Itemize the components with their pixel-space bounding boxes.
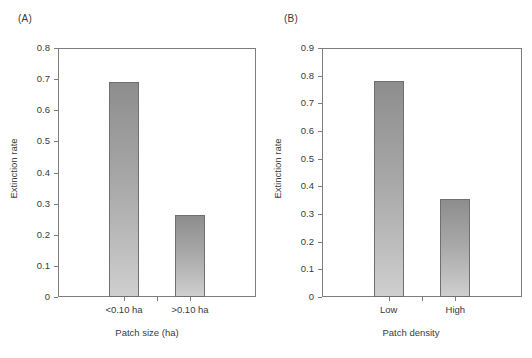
y-tick-label: 0.3 (301, 207, 314, 220)
y-tick-mark (54, 297, 58, 298)
x-tick-mark (455, 297, 456, 301)
y-tick-label: 0.1 (37, 259, 50, 272)
figure-root: (A) 00.10.20.30.40.50.60.70.8 Extinction… (0, 0, 532, 358)
clipped-caption-fragment (518, 10, 532, 56)
y-tick-label: 0.6 (301, 124, 314, 137)
panel-b-letter: (B) (284, 13, 298, 24)
panel-a-y-axis-title: Extinction rate (8, 119, 19, 219)
x-tick-label: >0.10 ha (171, 304, 208, 315)
panel-b-bars (322, 48, 522, 297)
y-tick-label: 0.4 (301, 179, 314, 192)
bar (109, 82, 139, 297)
panel-a: (A) 00.10.20.30.40.50.60.70.8 Extinction… (0, 0, 266, 358)
y-tick-label: 0.8 (37, 41, 50, 54)
bar (440, 199, 470, 297)
y-tick-mark (318, 297, 322, 298)
x-tick-label: Low (380, 304, 397, 315)
panel-a-bars (58, 48, 256, 297)
x-tick-label: <0.10 ha (105, 304, 142, 315)
x-tick-mark (124, 297, 125, 301)
x-tick-mark (389, 297, 390, 301)
panel-b-x-axis-title: Patch density (278, 327, 532, 338)
y-tick-label: 0.2 (37, 228, 50, 241)
y-tick-label: 0.5 (301, 152, 314, 165)
y-tick-label: 0.1 (301, 262, 314, 275)
panel-b: (B) 00.10.20.30.40.50.60.70.80.9 Extinct… (266, 0, 532, 358)
y-tick-label: 0.6 (37, 103, 50, 116)
x-tick-label: High (446, 304, 466, 315)
y-tick-label: 0 (45, 290, 50, 303)
y-tick-label: 0 (309, 290, 314, 303)
x-tick-mark (190, 297, 191, 301)
y-tick-label: 0.8 (301, 69, 314, 82)
panel-b-y-axis-title: Extinction rate (272, 119, 283, 219)
panel-a-letter: (A) (18, 13, 32, 24)
bar (374, 81, 404, 297)
y-tick-label: 0.3 (37, 197, 50, 210)
panel-a-x-axis-title: Patch size (ha) (14, 327, 280, 338)
x-tick-mark-mid (422, 297, 423, 301)
y-tick-label: 0.5 (37, 134, 50, 147)
y-tick-label: 0.9 (301, 41, 314, 54)
y-tick-label: 0.4 (37, 166, 50, 179)
y-tick-label: 0.7 (301, 96, 314, 109)
x-tick-mark-mid (157, 297, 158, 301)
y-tick-label: 0.7 (37, 72, 50, 85)
bar (175, 215, 205, 297)
y-tick-label: 0.2 (301, 235, 314, 248)
